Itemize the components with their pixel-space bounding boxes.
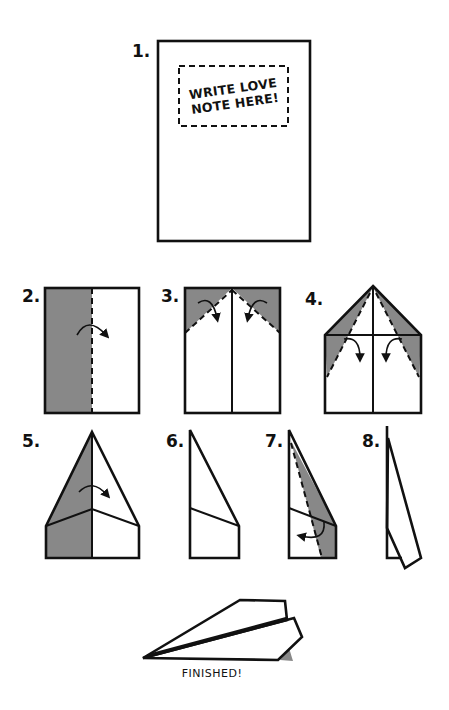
- step-2-number: 2.: [22, 286, 40, 306]
- step-7-number: 7.: [265, 431, 283, 451]
- folding-diagram: 1. WRITE LOVE NOTE HERE! 2. 3. 4.: [0, 0, 449, 710]
- step-4-number: 4.: [305, 289, 323, 309]
- step-3-number: 3.: [161, 286, 179, 306]
- step-1: 1. WRITE LOVE NOTE HERE!: [132, 41, 310, 241]
- step-8-number: 8.: [362, 431, 380, 451]
- fold-arrow-right-icon: [386, 339, 402, 358]
- finished-caption: FINISHED!: [182, 667, 243, 680]
- step-3: 3.: [161, 286, 280, 413]
- step-4: 4.: [305, 286, 421, 413]
- step-6: 6.: [166, 430, 239, 558]
- shaded-wing: [291, 441, 336, 558]
- folded-wing: [387, 438, 421, 568]
- step-6-number: 6.: [166, 431, 184, 451]
- airplane-bottom-wing: [143, 618, 302, 660]
- airplane-keel: [150, 618, 288, 655]
- step-8: 8.: [362, 426, 421, 568]
- step-1-number: 1.: [132, 41, 150, 61]
- step-5-number: 5.: [22, 431, 40, 451]
- step-2: 2.: [22, 286, 139, 413]
- airplane-top-wing: [143, 600, 287, 658]
- step-5: 5.: [22, 431, 139, 558]
- half-folded-sheet: [190, 430, 239, 558]
- shaded-half: [46, 433, 92, 558]
- finished-airplane: FINISHED!: [143, 600, 302, 680]
- shaded-half: [45, 288, 92, 413]
- step-7: 7.: [265, 430, 336, 558]
- fold-arrow-left-icon: [344, 339, 360, 358]
